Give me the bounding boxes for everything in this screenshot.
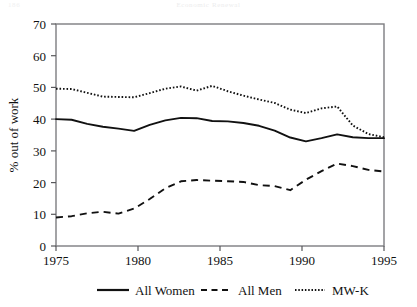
y-tick-label: 30: [33, 144, 46, 159]
y-tick-label: 10: [33, 207, 46, 222]
series-line-all-women: [56, 118, 384, 141]
y-tick-label: 40: [33, 112, 46, 127]
y-tick-label: 20: [33, 176, 46, 191]
y-tick-label: 50: [33, 80, 46, 95]
series-line-mw-k: [56, 86, 384, 137]
legend-label-all-women: All Women: [135, 283, 195, 298]
figure-container: 186 Economic Renewal 70 60 50 40 30 20 1…: [0, 0, 417, 307]
series-line-all-men: [56, 164, 384, 218]
x-tick-label: 1975: [43, 253, 69, 268]
x-tick-label: 1990: [289, 253, 315, 268]
y-axis-title: % out of work: [6, 97, 21, 172]
y-tick-label: 70: [33, 17, 46, 32]
y-tick-label: 0: [40, 239, 47, 254]
x-tick-marks: [56, 246, 384, 251]
legend-label-all-men: All Men: [238, 283, 282, 298]
y-tick-label: 60: [33, 49, 46, 64]
x-tick-label: 1980: [125, 253, 151, 268]
y-tick-labels: 70 60 50 40 30 20 10 0: [33, 17, 46, 254]
x-tick-label: 1985: [207, 253, 233, 268]
x-tick-label: 1995: [371, 253, 397, 268]
legend-label-mw-k: MW-K: [332, 283, 369, 298]
chart-legend: All Women All Men MW-K: [97, 283, 369, 298]
x-tick-labels: 1975 1980 1985 1990 1995: [43, 253, 397, 268]
line-chart: 70 60 50 40 30 20 10 0 % out of work 197…: [0, 0, 417, 307]
y-tick-marks: [51, 24, 56, 246]
